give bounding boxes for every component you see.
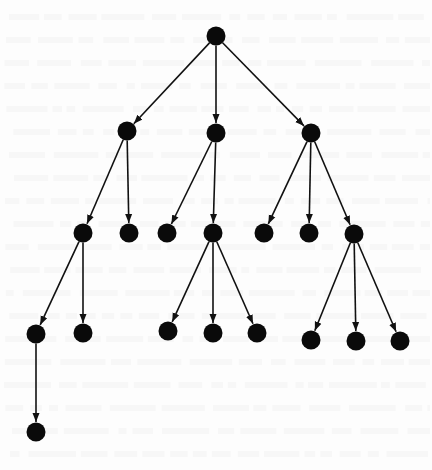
tree-node-a1a1	[27, 423, 46, 442]
edge-b2-to-b2a	[172, 242, 209, 322]
tree-node-b2a	[159, 322, 178, 341]
edge-a-to-a2	[127, 141, 129, 224]
edge-b-to-b2	[213, 143, 215, 224]
tree-node-c2	[300, 224, 319, 243]
tree-node-c3c	[391, 332, 410, 351]
edge-c-to-c3	[315, 142, 350, 225]
tree-node-b1	[158, 224, 177, 243]
edge-b-to-b1	[171, 142, 211, 225]
edge-c-to-c1	[268, 142, 307, 224]
edge-c3-to-c3c	[358, 243, 396, 332]
edge-b2-to-b2c	[217, 242, 253, 324]
tree-node-c	[302, 124, 321, 143]
tree-node-b2	[204, 224, 223, 243]
tree-diagram	[0, 0, 432, 470]
edge-root-to-a	[134, 43, 210, 124]
tree-node-a1b	[74, 324, 93, 343]
edge-root-to-c	[223, 43, 304, 126]
tree-node-b2c	[248, 324, 267, 343]
edge-c-to-c2	[309, 143, 311, 224]
tree-node-c3b	[347, 332, 366, 351]
tree-node-root	[207, 27, 226, 46]
tree-node-b	[207, 124, 226, 143]
tree-node-a1a	[27, 325, 46, 344]
tree-node-a2	[120, 224, 139, 243]
tree-node-c3	[345, 225, 364, 244]
tree-node-c3a	[302, 331, 321, 350]
edge-a-to-a1	[87, 140, 123, 224]
node-group	[27, 27, 410, 442]
edge-c3-to-c3a	[315, 243, 351, 331]
tree-node-c1	[255, 224, 274, 243]
tree-node-a1	[74, 224, 93, 243]
edge-c3-to-c3b	[354, 244, 356, 332]
tree-node-b2b	[204, 324, 223, 343]
edge-a1-to-a1a	[40, 242, 79, 325]
tree-node-a	[118, 122, 137, 141]
